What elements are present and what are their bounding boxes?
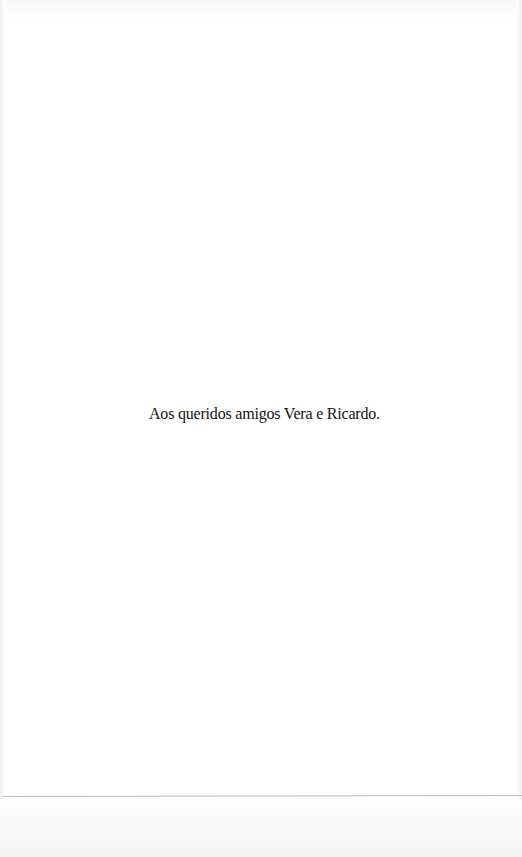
scanned-page: Aos queridos amigos Vera e Ricardo. (0, 0, 522, 857)
page-edge-right (516, 0, 522, 857)
horizontal-rule (2, 795, 522, 797)
page-edge-left (0, 0, 6, 857)
dedication-text: Aos queridos amigos Vera e Ricardo. (149, 405, 380, 423)
page-bottom-shading (0, 800, 522, 857)
